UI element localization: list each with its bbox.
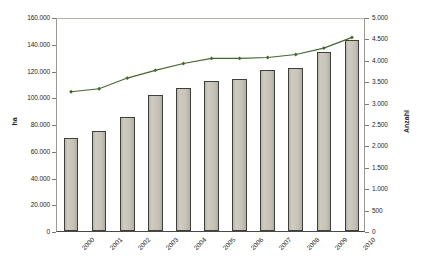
x-axis-label: 2003 xyxy=(165,236,180,251)
y-axis-left-tick xyxy=(52,232,56,233)
y-axis-right-tick-label: 5.000 xyxy=(372,14,388,21)
line-markers xyxy=(69,36,354,94)
line-marker xyxy=(182,62,186,66)
x-axis-label: 2001 xyxy=(108,236,123,251)
line-marker xyxy=(69,90,73,94)
y-axis-right-tick-label: 1.500 xyxy=(372,164,388,171)
y-axis-right-tick-label: 0 xyxy=(372,228,376,235)
line-marker xyxy=(238,56,242,60)
line-marker xyxy=(97,87,101,91)
y-axis-right-tick-label: 4.000 xyxy=(372,57,388,64)
line-marker xyxy=(210,56,214,60)
y-axis-right-tick-label: 4.500 xyxy=(372,35,388,42)
x-axis-label: 2006 xyxy=(249,236,264,251)
x-axis-label: 2002 xyxy=(136,236,151,251)
x-axis-label: 2009 xyxy=(333,236,348,251)
x-axis-label: 2007 xyxy=(277,236,292,251)
y-axis-left-tick-label: 160.000 xyxy=(6,14,50,21)
y-axis-left-tick-label: 120.000 xyxy=(6,68,50,75)
x-axis-label: 2010 xyxy=(361,236,376,251)
line-marker xyxy=(322,46,326,50)
y-axis-right-tick-label: 3.000 xyxy=(372,100,388,107)
line-marker xyxy=(294,53,298,57)
x-axis-label: 2000 xyxy=(80,236,95,251)
y-axis-left-tick-label: 140.000 xyxy=(6,41,50,48)
line-path xyxy=(71,37,352,91)
x-axis-label: 2008 xyxy=(305,236,320,251)
line-marker xyxy=(153,68,157,72)
y-axis-left-tick-label: 0 xyxy=(6,228,50,235)
y-axis-left-tick-label: 60.000 xyxy=(6,148,50,155)
x-axis-label: 2004 xyxy=(193,236,208,251)
y-axis-right-title: Anzahl xyxy=(403,102,410,142)
y-axis-left-tick-label: 100.000 xyxy=(6,94,50,101)
line-marker xyxy=(266,56,270,60)
y-axis-left-tick-label: 40.000 xyxy=(6,175,50,182)
line-marker xyxy=(125,76,129,80)
x-axis-label: 2005 xyxy=(221,236,236,251)
chart-container: ha Anzahl 020.00040.00060.00080.000100.0… xyxy=(0,0,421,270)
plot-area xyxy=(56,18,365,232)
line-series xyxy=(57,19,366,233)
line-marker xyxy=(350,36,354,40)
y-axis-right-tick-label: 2.000 xyxy=(372,142,388,149)
y-axis-right-tick-label: 3.500 xyxy=(372,78,388,85)
y-axis-right-tick-label: 2.500 xyxy=(372,121,388,128)
y-axis-right-tick-label: 500 xyxy=(372,207,383,214)
y-axis-left-tick-label: 80.000 xyxy=(6,121,50,128)
y-axis-right-tick-label: 1.000 xyxy=(372,185,388,192)
y-axis-left-tick-label: 20.000 xyxy=(6,201,50,208)
